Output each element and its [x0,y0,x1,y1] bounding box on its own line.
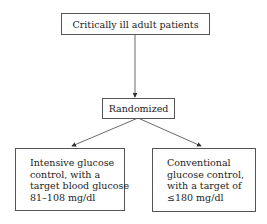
intensive-control-box: Intensive glucose control, with a target… [15,148,125,211]
population-box: Critically ill adult patients [61,13,210,35]
intensive-line-3: target blood glucose [30,180,124,192]
randomized-box: Randomized [102,98,175,119]
arrow-randomized-to-conventional [138,118,201,146]
intensive-line-2: control, with a [30,169,124,181]
conventional-line-4: ≤180 mg/dl [167,192,255,204]
conventional-control-box: Conventional glucose control, with a tar… [152,148,256,212]
intensive-line-1: Intensive glucose [30,157,124,169]
intensive-line-4: 81–108 mg/dl [30,192,124,204]
randomized-label: Randomized [109,103,169,114]
population-label: Critically ill adult patients [72,19,198,30]
conventional-line-3: with a target of [167,180,255,192]
arrow-randomized-to-intensive [72,118,138,146]
conventional-line-1: Conventional [167,157,255,169]
conventional-line-2: glucose control, [167,169,255,181]
